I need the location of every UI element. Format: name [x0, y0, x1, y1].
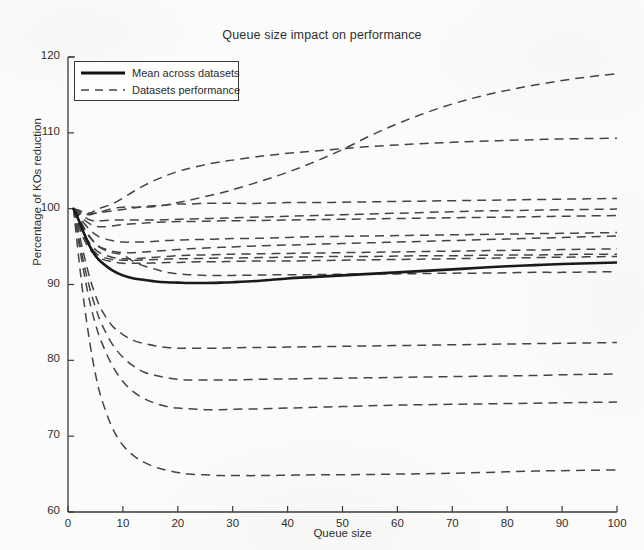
legend-label-mean: Mean across datasets — [132, 67, 240, 79]
dataset-curve — [73, 209, 617, 380]
x-tick-label: 80 — [487, 517, 527, 529]
x-tick-label: 30 — [213, 517, 253, 529]
x-tick-label: 100 — [597, 517, 637, 529]
legend-dashed-line-icon — [80, 85, 126, 95]
series-layer — [73, 74, 617, 476]
legend-item-mean: Mean across datasets — [80, 64, 240, 82]
dataset-curve — [73, 198, 617, 213]
chart-legend: Mean across datasets Datasets performanc… — [74, 61, 239, 101]
y-axis-label: Percentage of KOs reduction — [31, 92, 43, 292]
dataset-curve — [73, 209, 617, 227]
x-tick-label: 40 — [268, 517, 308, 529]
y-tick-label: 100 — [22, 201, 60, 213]
y-tick-label: 120 — [22, 49, 60, 61]
x-tick-label: 60 — [377, 517, 417, 529]
legend-label-datasets: Datasets performance — [132, 84, 240, 96]
x-tick-label: 20 — [158, 517, 198, 529]
dataset-curve — [73, 209, 617, 476]
y-tick-label: 90 — [22, 277, 60, 289]
legend-item-datasets: Datasets performance — [80, 81, 240, 99]
y-tick-label: 80 — [22, 352, 60, 364]
chart-screenshot: Queue size impact on performance Percent… — [0, 0, 644, 550]
dataset-curve — [73, 209, 617, 242]
x-tick-label: 10 — [103, 517, 143, 529]
axes — [68, 57, 617, 512]
dataset-curve — [73, 138, 617, 215]
y-tick-label: 110 — [22, 125, 60, 137]
x-tick-label: 50 — [323, 517, 363, 529]
x-tick-label: 70 — [432, 517, 472, 529]
y-tick-label: 60 — [22, 504, 60, 516]
legend-solid-line-icon — [80, 68, 126, 78]
y-tick-label: 70 — [22, 428, 60, 440]
dataset-curve — [73, 209, 617, 349]
axis-ticks — [68, 57, 617, 512]
x-tick-label: 90 — [542, 517, 582, 529]
x-tick-label: 0 — [48, 517, 88, 529]
